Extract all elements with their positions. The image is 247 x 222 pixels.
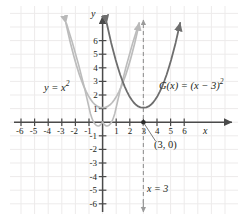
y-tick-label--4: -4 <box>90 173 98 182</box>
parent-curve-label-exponent: 2 <box>66 79 70 88</box>
y-tick-label-4: 4 <box>93 64 98 73</box>
x-tick-label-1: 1 <box>114 127 119 136</box>
axis-of-symmetry-label: x = 3 <box>147 184 168 194</box>
coordinate-plane-svg <box>0 0 247 222</box>
x-axis-name: x <box>203 126 207 136</box>
parent-curve-label: y = x2 <box>44 80 69 93</box>
y-tick-label--2: -2 <box>90 145 98 154</box>
parent-curve-label-text: y = x <box>44 82 66 93</box>
y-tick-label-1: 1 <box>93 105 98 114</box>
x-tick-label-5: 5 <box>169 127 174 136</box>
vertex-point-label: (3, 0) <box>154 140 177 151</box>
x-tick-label-4: 4 <box>155 127 160 136</box>
y-tick-label--5: -5 <box>90 186 98 195</box>
x-tick-label-6: 6 <box>182 127 187 136</box>
x-tick-label--4: -4 <box>43 127 51 136</box>
y-tick-label-6: 6 <box>93 37 98 46</box>
y-tick-label--6: -6 <box>90 200 98 209</box>
vertex-point-marker <box>141 120 146 125</box>
y-tick-label-5: 5 <box>93 50 98 59</box>
shifted-curve-label-exponent: 2 <box>220 77 224 86</box>
y-tick-label--3: -3 <box>90 159 98 168</box>
shifted-curve-label: G(x) = (x − 3)2 <box>159 78 224 91</box>
y-tick-label-3: 3 <box>93 77 98 86</box>
background-grid <box>10 6 238 214</box>
shifted-curve-label-text: G(x) = (x − 3) <box>159 80 220 91</box>
y-tick-label--1: -1 <box>90 132 98 141</box>
x-tick-label-3: 3 <box>141 127 146 136</box>
x-tick-label-2: 2 <box>128 127 133 136</box>
x-tick-label--5: -5 <box>30 127 38 136</box>
x-tick-label--6: -6 <box>16 127 24 136</box>
x-tick-label--3: -3 <box>57 127 65 136</box>
x-tick-label--2: -2 <box>71 127 79 136</box>
y-tick-label-2: 2 <box>93 91 98 100</box>
graph-figure: -6 -5 -4 -3 -2 -1 1 2 3 4 5 6 6 5 4 3 2 … <box>0 0 247 222</box>
y-axis-name: y <box>91 9 95 19</box>
